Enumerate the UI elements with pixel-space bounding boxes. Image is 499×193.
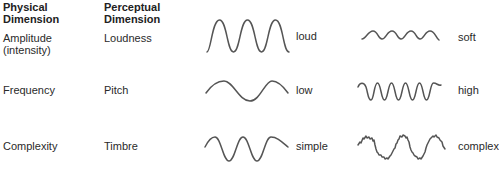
physical-complexity: Complexity xyxy=(3,140,57,152)
perceptual-pitch: Pitch xyxy=(104,84,128,96)
header-line: Dimension xyxy=(104,13,160,25)
low-label: low xyxy=(296,84,313,96)
row-label: (intensity) xyxy=(3,44,52,56)
complex-label: complex xyxy=(458,140,499,152)
soft-label: soft xyxy=(458,31,476,43)
physical-amplitude: Amplitude (intensity) xyxy=(3,32,52,56)
header-line: Dimension xyxy=(3,13,59,25)
row-label: Frequency xyxy=(3,84,55,96)
row-label: Complexity xyxy=(3,140,57,152)
perceptual-dimension-header: Perceptual Dimension xyxy=(104,1,160,25)
physical-frequency: Frequency xyxy=(3,84,55,96)
header-line: Perceptual xyxy=(104,1,160,13)
header-line: Physical xyxy=(3,1,59,13)
physical-dimension-header: Physical Dimension xyxy=(3,1,59,25)
loud-wave-icon xyxy=(206,18,290,54)
simple-label: simple xyxy=(296,140,328,152)
loud-label: loud xyxy=(296,30,317,42)
high-wave-icon xyxy=(357,81,445,102)
simple-wave-icon xyxy=(204,135,290,163)
high-label: high xyxy=(458,84,479,96)
soft-wave-icon xyxy=(361,28,441,43)
perceptual-timbre: Timbre xyxy=(104,140,138,152)
complex-wave-icon xyxy=(357,133,449,163)
row-label: Amplitude xyxy=(3,32,52,44)
perceptual-loudness: Loudness xyxy=(104,32,152,44)
low-wave-icon xyxy=(205,79,289,103)
